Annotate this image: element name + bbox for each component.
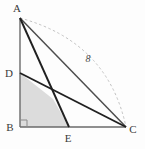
vertex-label-e: E <box>65 132 72 144</box>
length-label-ac: 8 <box>86 53 91 64</box>
vertex-label-c: C <box>129 123 136 135</box>
geometry-figure-container: A B C D E 8 <box>0 0 145 149</box>
vertex-label-b: B <box>6 121 13 133</box>
geometry-figure-svg: A B C D E 8 <box>0 0 145 149</box>
vertex-label-a: A <box>13 2 21 14</box>
vertex-label-d: D <box>5 67 13 79</box>
